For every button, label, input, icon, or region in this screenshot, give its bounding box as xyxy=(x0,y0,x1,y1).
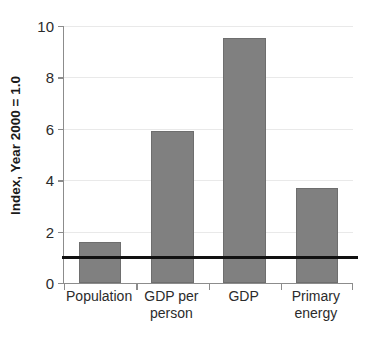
baseline-reference-line xyxy=(62,256,358,259)
y-axis-tick-label: 2 xyxy=(46,224,54,239)
y-axis-tick-label: 0 xyxy=(46,276,54,291)
x-axis-labels: PopulationGDP per personGDPPrimary energ… xyxy=(63,288,352,338)
y-axis-tick-label: 10 xyxy=(37,19,54,34)
bar xyxy=(223,38,265,283)
x-axis-category-label: GDP xyxy=(208,288,280,338)
y-axis-tick-label: 6 xyxy=(46,121,54,136)
y-axis-tick-label: 8 xyxy=(46,70,54,85)
x-axis-category-label: Primary energy xyxy=(280,288,352,338)
x-axis-category-label: GDP per person xyxy=(135,288,207,338)
bar xyxy=(79,242,121,283)
bar xyxy=(151,131,193,283)
y-axis-title-text: Index, Year 2000 = 1.0 xyxy=(8,76,23,215)
y-axis-title: Index, Year 2000 = 1.0 xyxy=(0,0,30,290)
bar-chart: Index, Year 2000 = 1.0 1086420 Populatio… xyxy=(0,0,373,347)
plot-area xyxy=(63,26,353,284)
y-axis-tick-label: 4 xyxy=(46,173,54,188)
x-axis-category-label: Population xyxy=(63,288,135,338)
bar xyxy=(296,188,338,283)
bars-layer xyxy=(64,26,353,283)
y-axis-tick-labels: 1086420 xyxy=(30,0,58,347)
